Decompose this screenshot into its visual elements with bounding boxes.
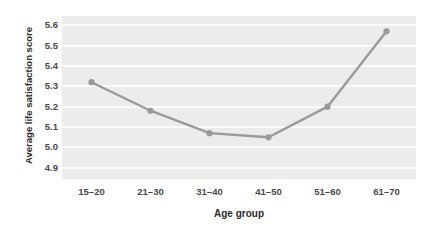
data-point-marker	[383, 28, 389, 34]
series-line	[92, 31, 387, 137]
y-tick-label: 5.3	[36, 81, 58, 91]
data-point-marker	[265, 134, 271, 140]
chart-figure: Average life satisfaction score 5.65.55.…	[0, 0, 436, 234]
x-tick-label: 21–30	[121, 186, 181, 198]
line-series	[62, 16, 416, 179]
y-tick-label: 5.5	[36, 41, 58, 51]
y-tick-label: 5.0	[36, 142, 58, 152]
y-tick-label: 5.6	[36, 20, 58, 30]
data-point-marker	[324, 104, 330, 110]
data-point-marker	[88, 79, 94, 85]
data-point-marker	[206, 130, 212, 136]
data-point-marker	[147, 108, 153, 114]
x-axis-title: Age group	[62, 208, 416, 219]
y-tick-label: 4.9	[36, 163, 58, 173]
y-tick-label: 5.4	[36, 61, 58, 71]
plot-area	[62, 16, 416, 179]
x-tick-label: 61–70	[357, 186, 417, 198]
y-tick-label: 5.2	[36, 102, 58, 112]
x-tick-label: 51–60	[298, 186, 358, 198]
x-tick-label: 15–20	[62, 186, 122, 198]
y-axis-title: Average life satisfaction score	[23, 11, 34, 181]
x-tick-label: 41–50	[239, 186, 299, 198]
x-tick-label: 31–40	[180, 186, 240, 198]
y-tick-label: 5.1	[36, 122, 58, 132]
y-axis-tick-labels: 5.65.55.45.35.25.15.04.9	[34, 0, 58, 234]
